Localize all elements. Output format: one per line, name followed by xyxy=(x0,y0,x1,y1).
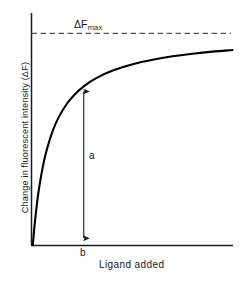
x-axis-label: Ligand added xyxy=(99,260,164,270)
delta-f-max-subscript: max xyxy=(88,23,103,32)
segment-a-label: a xyxy=(89,151,95,161)
delta-f-max-label: ΔFmax xyxy=(74,19,102,30)
segment-b-label: b xyxy=(80,248,86,258)
binding-curve xyxy=(33,50,233,245)
delta-f-max-symbol: ΔF xyxy=(74,18,88,30)
binding-curve-figure: Change in fluorescent intensity (ΔF) Lig… xyxy=(0,0,244,281)
y-axis-label: Change in fluorescent intensity (ΔF) xyxy=(21,38,30,238)
plot-canvas xyxy=(0,0,244,281)
